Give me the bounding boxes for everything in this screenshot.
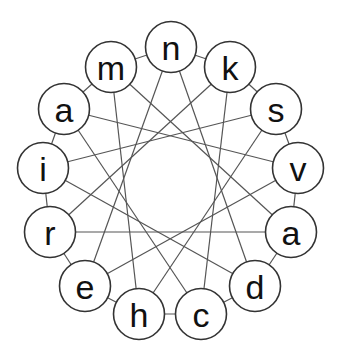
node-letter: n: [162, 29, 181, 67]
letter-node: r: [25, 207, 76, 258]
node-letter: a: [282, 214, 301, 252]
node-letter: k: [222, 49, 240, 87]
letter-node: v: [273, 143, 324, 194]
node-letter: r: [44, 214, 55, 252]
letter-node: a: [39, 84, 90, 135]
node-letter: h: [130, 296, 149, 334]
node-letter: a: [55, 91, 74, 129]
letter-node: i: [18, 143, 69, 194]
letter-node: d: [230, 261, 281, 312]
star-chord: [111, 67, 139, 314]
letter-star-diagram: nksvadcheriam: [0, 0, 339, 359]
letter-nodes: nksvadcheriam: [18, 22, 324, 340]
letter-node: m: [86, 42, 137, 93]
node-letter: d: [246, 268, 265, 306]
letter-node: a: [266, 207, 317, 258]
letter-node: h: [114, 289, 165, 340]
letter-node: s: [251, 84, 302, 135]
letter-node: c: [176, 289, 227, 340]
star-chord: [201, 67, 230, 314]
node-letter: s: [268, 91, 285, 129]
node-letter: i: [39, 150, 47, 188]
letter-node: n: [146, 22, 197, 73]
letter-node: k: [205, 42, 256, 93]
node-letter: e: [76, 268, 95, 306]
node-letter: c: [193, 296, 210, 334]
node-letter: m: [97, 49, 125, 87]
node-letter: v: [290, 150, 307, 188]
letter-node: e: [60, 261, 111, 312]
